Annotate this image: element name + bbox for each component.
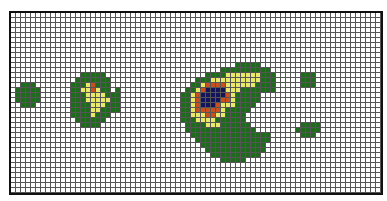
heatmap-cell — [376, 188, 381, 193]
pressure-heatmap — [9, 11, 383, 195]
